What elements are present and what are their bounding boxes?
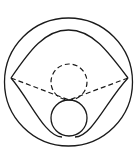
upper-lens-curve	[11, 30, 128, 78]
outer-circle	[5, 18, 133, 146]
solid-circle	[51, 100, 87, 136]
geometry-diagram	[0, 0, 136, 159]
lower-lens-curve	[11, 78, 128, 137]
dashed-circle	[51, 64, 87, 100]
